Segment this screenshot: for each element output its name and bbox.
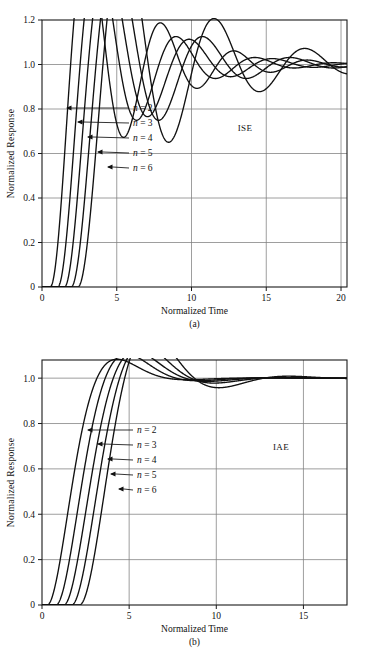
curve-n3 [42, 354, 347, 605]
annotation-label: n = 6 [133, 163, 153, 173]
y-tick-label: 1.2 [23, 15, 35, 25]
y-tick-label: 0 [30, 600, 35, 610]
leader-line [113, 459, 133, 460]
x-tick-label: 15 [262, 293, 272, 303]
plot-frame [42, 360, 347, 605]
annotation-label: n = 6 [137, 485, 157, 495]
curve-n2 [42, 359, 347, 605]
x-axis-title: Normalized Time [161, 306, 228, 316]
ise-plot-svg: 0510152000.20.40.60.81.01.2Normalized Ti… [0, 0, 372, 330]
y-tick-label: 0.2 [23, 555, 35, 565]
annotation-2 [87, 427, 133, 432]
annotation-3 [77, 119, 129, 124]
annotation-label: n = 3 [137, 440, 157, 450]
chart-panel-iae: 05101500.20.40.60.81.0Normalized TimeNor… [0, 330, 372, 660]
criterion-label: IAE [273, 442, 289, 452]
annotation-label: n = 5 [137, 470, 157, 480]
curve-n6 [42, 332, 347, 605]
curve-n5 [42, 345, 347, 605]
annotation-3 [97, 441, 133, 446]
annotation-2 [66, 105, 129, 110]
x-tick-label: 5 [114, 293, 119, 303]
x-tick-label: 5 [127, 611, 132, 621]
chart-panel-ise: 0510152000.20.40.60.81.01.2Normalized Ti… [0, 0, 372, 330]
y-tick-label: 0 [30, 282, 35, 292]
annotation-label: n = 3 [133, 118, 153, 128]
annotation-label: n = 2 [133, 103, 153, 113]
panel-caption: (a) [189, 319, 200, 330]
y-tick-label: 1.0 [23, 374, 35, 384]
arrow-head [87, 427, 93, 432]
leader-line [83, 122, 129, 123]
x-tick-label: 20 [336, 293, 346, 303]
y-tick-label: 1.0 [23, 60, 35, 70]
annotation-5 [110, 471, 133, 476]
y-tick-label: 0.4 [23, 193, 35, 203]
x-tick-label: 15 [299, 611, 309, 621]
arrow-head [118, 486, 124, 491]
leader-line [103, 444, 133, 445]
x-tick-label: 0 [40, 611, 45, 621]
curve-n4 [42, 351, 347, 605]
panel-caption: (b) [189, 637, 200, 648]
figure-page: 0510152000.20.40.60.81.01.2Normalized Ti… [0, 0, 372, 660]
arrow-head [66, 105, 72, 110]
y-tick-label: 0.8 [23, 419, 35, 429]
y-tick-label: 0.8 [23, 104, 35, 114]
arrow-head [107, 164, 113, 169]
iae-plot-svg: 05101500.20.40.60.81.0Normalized TimeNor… [0, 330, 372, 660]
y-tick-label: 0.6 [23, 149, 35, 159]
x-tick-label: 0 [40, 293, 45, 303]
criterion-label: ISE [238, 123, 253, 133]
arrow-head [110, 471, 116, 476]
x-tick-label: 10 [212, 611, 222, 621]
x-axis-title: Normalized Time [161, 624, 228, 634]
y-axis-title: Normalized Response [6, 438, 16, 527]
leader-line [124, 489, 133, 490]
x-tick-label: 10 [187, 293, 197, 303]
annotation-label: n = 4 [137, 455, 157, 465]
y-tick-label: 0.4 [23, 510, 35, 520]
annotation-6 [118, 486, 133, 491]
curve-n6 [42, 0, 347, 287]
y-tick-label: 0.6 [23, 464, 35, 474]
annotation-label: n = 2 [137, 425, 157, 435]
y-axis-title: Normalized Response [6, 109, 16, 198]
arrow-head [77, 119, 83, 124]
y-tick-label: 0.2 [23, 238, 35, 248]
leader-line [113, 167, 129, 168]
annotation-label: n = 5 [133, 148, 153, 158]
leader-line [116, 474, 133, 475]
annotation-6 [107, 164, 129, 169]
annotation-label: n = 4 [133, 133, 153, 143]
leader-line [103, 152, 129, 153]
